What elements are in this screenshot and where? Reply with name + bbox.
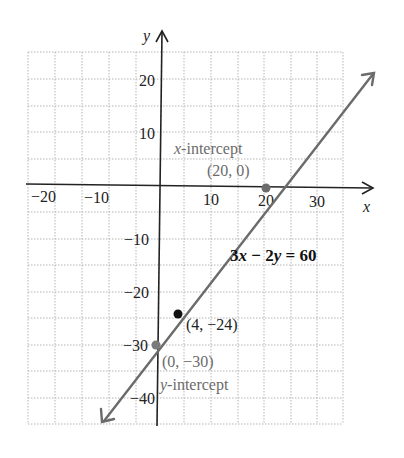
x-tick-label: −10 [84,189,109,206]
x-tick-label: −20 [31,188,56,205]
y-tick-label: −10 [124,231,149,248]
point-label: (4, −24) [186,316,238,334]
y-tick-label: −40 [130,390,155,407]
y-tick-label: −20 [124,284,149,301]
y-tick-label: 20 [139,72,155,89]
y-intercept-label: y-intercept [158,376,229,394]
y-tick-label: 10 [139,125,155,142]
x-tick-label: 10 [203,191,219,208]
equation-label: 3x − 2y = 60 [230,246,316,265]
point-4-neg24 [174,310,183,319]
point-x-intercept [262,184,271,193]
y-tick-label: −30 [123,337,148,354]
y-intercept-point-label: (0, −30) [162,353,214,371]
graph: x y −20 −10 10 20 30 20 10 −10 −20 −30 −… [0,0,404,458]
x-intercept-label: x-intercept [173,140,243,158]
x-axis-label: x [362,198,370,215]
x-axis [26,184,372,188]
y-axis-label: y [141,27,151,45]
x-tick-label: 30 [309,193,325,210]
x-intercept-point-label: (20, 0) [207,162,250,180]
point-y-intercept [152,341,161,350]
